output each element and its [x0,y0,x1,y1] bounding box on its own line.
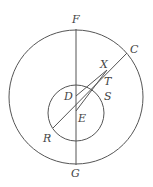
label-C: C [130,43,139,56]
label-E: E [77,112,86,125]
label-F: F [71,13,80,26]
geometry-diagram: F C X T D S E R G [0,0,153,187]
label-D: D [63,90,73,103]
label-T: T [104,75,113,88]
label-R: R [42,132,51,145]
label-G: G [71,167,80,180]
line-DX [76,70,107,96]
label-S: S [104,90,112,103]
label-X: X [99,58,109,71]
